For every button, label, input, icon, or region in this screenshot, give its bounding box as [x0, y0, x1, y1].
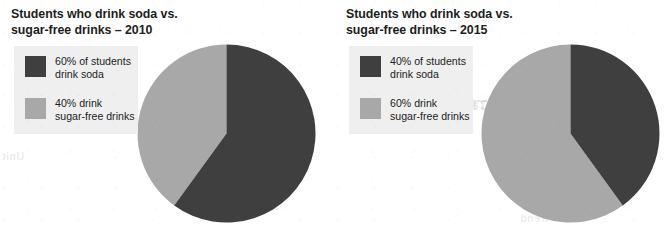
pie-graphic-2010: [137, 44, 316, 223]
pie-chart-figure-2010: Students who drink soda vs. sugar-free d…: [0, 0, 335, 229]
chart-legend-2010: 60% of students drink soda 40% drink sug…: [14, 46, 138, 134]
legend-item-sugar-free-label: 60% drink sugar-free drinks: [390, 97, 469, 123]
legend-item-sugar-free: 60% drink sugar-free drinks: [360, 97, 469, 123]
legend-item-sugar-free-label: 40% drink sugar-free drinks: [55, 97, 134, 123]
legend-label-line-1: 40% drink: [55, 97, 134, 110]
legend-swatch-dark-icon: [360, 56, 381, 77]
legend-item-soda-label: 60% of students drink soda: [55, 55, 131, 81]
legend-label-line-2: sugar-free drinks: [390, 110, 469, 123]
legend-swatch-light-icon: [25, 98, 46, 119]
legend-label-line-2: drink soda: [390, 68, 466, 81]
chart-title-line-2: sugar-free drinks – 2015: [346, 23, 561, 39]
chart-title-line-1: Students who drink soda vs.: [11, 7, 226, 23]
legend-swatch-light-icon: [360, 98, 381, 119]
legend-label-line-2: drink soda: [55, 68, 131, 81]
pie-chart-figure-2015: Students who drink soda vs. sugar-free d…: [335, 0, 670, 229]
pie-svg-2010: [137, 44, 316, 223]
legend-label-line-1: 60% of students: [55, 55, 131, 68]
legend-label-line-2: sugar-free drinks: [55, 110, 134, 123]
pie-graphic-2015: [481, 44, 660, 223]
chart-title-line-2: sugar-free drinks – 2010: [11, 23, 226, 39]
legend-swatch-dark-icon: [25, 56, 46, 77]
chart-title-2010: Students who drink soda vs. sugar-free d…: [11, 7, 226, 38]
chart-title-2015: Students who drink soda vs. sugar-free d…: [346, 7, 561, 38]
legend-item-soda: 40% of students drink soda: [360, 55, 466, 81]
pie-svg-2015: [481, 44, 660, 223]
legend-item-soda: 60% of students drink soda: [25, 55, 131, 81]
legend-item-sugar-free: 40% drink sugar-free drinks: [25, 97, 134, 123]
chart-legend-2015: 40% of students drink soda 60% drink sug…: [349, 46, 473, 134]
legend-item-soda-label: 40% of students drink soda: [390, 55, 466, 81]
chart-title-line-1: Students who drink soda vs.: [346, 7, 561, 23]
legend-label-line-1: 40% of students: [390, 55, 466, 68]
legend-label-line-1: 60% drink: [390, 97, 469, 110]
